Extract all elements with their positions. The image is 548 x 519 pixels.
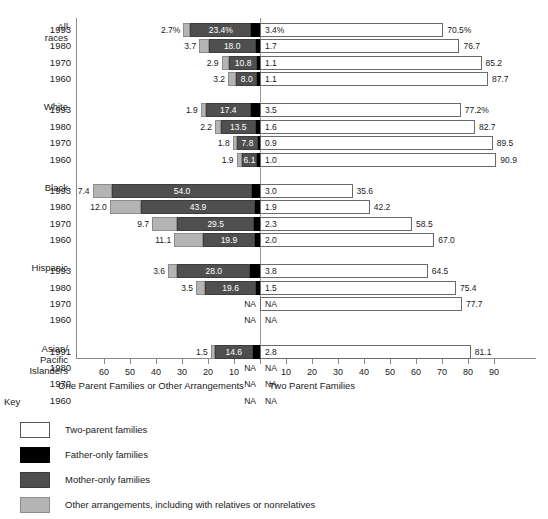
tick-mark [286, 359, 287, 364]
tick-label-left-60: 60 [92, 367, 116, 378]
year-label: 1970 [41, 218, 71, 229]
segment-father-only [251, 103, 260, 117]
year-label: 1980 [41, 121, 71, 132]
tick-label-right-60: 60 [404, 367, 428, 378]
legend-swatch-other [20, 497, 50, 513]
tick-mark [364, 359, 365, 364]
plot-area: 23.4%2.7%3.4%70.5%18.03.71.776.710.82.91… [76, 18, 540, 358]
segment-mother-only: 28.0 [177, 264, 250, 278]
value-label-na: NA [216, 394, 256, 408]
legend-label-father: Father-only families [65, 449, 148, 461]
tick-label-right-10: 10 [274, 367, 298, 378]
segment-mother-only: 14.6 [215, 345, 253, 359]
bar-row: NA77.7NA [76, 297, 540, 311]
year-label: 1993 [41, 24, 71, 35]
segment-two-parent: 2.0 [260, 233, 434, 247]
legend-swatch-two [20, 422, 50, 438]
bar-row: 28.03.63.864.5 [76, 264, 540, 278]
tick-mark [416, 359, 417, 364]
tick-mark [338, 359, 339, 364]
segment-father-only [253, 345, 260, 359]
segment-two-parent: 2.8 [260, 345, 471, 359]
tick-label-left-20: 20 [196, 367, 220, 378]
value-label-two-parent: 90.9 [500, 153, 517, 167]
segment-mother-only: 6.1 [242, 153, 258, 167]
bar-row: NANA [76, 313, 540, 327]
value-label-other: 9.7 [109, 217, 149, 231]
segment-two-parent: 3.4% [260, 23, 443, 37]
segment-other-arrangements [228, 72, 236, 86]
bar-row: 43.912.01.942.2 [76, 200, 540, 214]
segment-two-parent: NA [260, 297, 462, 311]
tick-mark [182, 359, 183, 364]
segment-two-parent: 1.9 [260, 200, 370, 214]
tick-label-right-30: 30 [326, 367, 350, 378]
segment-mother-only: 43.9 [141, 200, 255, 214]
bar-row: 19.63.51.575.4 [76, 281, 540, 295]
tick-mark [468, 359, 469, 364]
x-axis-title-left: One Parent Families or Other Arrangement… [58, 380, 244, 392]
segment-mother-only: 8.0 [236, 72, 257, 86]
segment-other-arrangements [211, 345, 215, 359]
year-label: 1980 [41, 40, 71, 51]
segment-other-arrangements [222, 56, 230, 70]
segment-other-arrangements [93, 184, 112, 198]
year-label: 1993 [41, 104, 71, 115]
value-label-two-parent: 58.5 [416, 217, 433, 231]
segment-two-parent: 3.0 [260, 184, 353, 198]
value-label-two-parent: 87.7 [492, 72, 509, 86]
value-label-na: NA [265, 394, 277, 408]
year-label: 1980 [41, 282, 71, 293]
tick-mark [442, 359, 443, 364]
year-label: 1960 [41, 395, 71, 406]
legend-swatch-father [20, 447, 50, 463]
bar-row: 14.61.52.881.1 [76, 345, 540, 359]
segment-father-only [251, 23, 260, 37]
segment-two-parent: 1.5 [260, 281, 456, 295]
bar-row: 23.4%2.7%3.4%70.5% [76, 23, 540, 37]
tick-mark [390, 359, 391, 364]
segment-father-only [252, 184, 260, 198]
segment-other-arrangements [233, 136, 238, 150]
value-label-other: 1.9 [194, 153, 234, 167]
segment-other-arrangements [196, 281, 205, 295]
value-label-two-parent: 75.4 [460, 281, 477, 295]
bar-row: 17.41.93.577.2% [76, 103, 540, 117]
value-label-two-parent: 35.6 [357, 184, 374, 198]
year-label: 1960 [41, 154, 71, 165]
segment-other-arrangements [110, 200, 141, 214]
year-label: 1960 [41, 234, 71, 245]
segment-mother-only: 10.8 [229, 56, 257, 70]
value-label-other: 1.8 [190, 136, 230, 150]
segment-two-parent: 2.3 [260, 217, 412, 231]
value-label-two-parent: 70.5% [447, 23, 471, 37]
segment-other-arrangements [215, 120, 221, 134]
tick-mark [104, 359, 105, 364]
value-label-two-parent: 85.2 [486, 56, 503, 70]
value-label-two-parent: 76.7 [463, 39, 480, 53]
tick-mark [312, 359, 313, 364]
year-label: 1970 [41, 137, 71, 148]
segment-mother-only: 13.5 [221, 120, 256, 134]
segment-two-parent: 3.8 [260, 264, 428, 278]
value-label-other: 12.0 [67, 200, 107, 214]
value-label-other: 7.4 [50, 184, 90, 198]
value-label-other: 3.5 [153, 281, 193, 295]
year-label: 1980 [41, 362, 71, 373]
tick-label-right-50: 50 [378, 367, 402, 378]
segment-other-arrangements [237, 153, 242, 167]
segment-other-arrangements [152, 217, 177, 231]
year-label: 1960 [41, 73, 71, 84]
value-label-other: 2.2 [172, 120, 212, 134]
tick-label-left-30: 30 [170, 367, 194, 378]
value-label-other: 11.1 [131, 233, 171, 247]
segment-two-parent: 3.5 [260, 103, 461, 117]
tick-mark [130, 359, 131, 364]
tick-label-right-70: 70 [430, 367, 454, 378]
year-label: 1991 [41, 346, 71, 357]
bar-row: 18.03.71.776.7 [76, 39, 540, 53]
legend-swatch-mother [20, 472, 50, 488]
segment-two-parent: 0.9 [260, 136, 493, 150]
bar-row: 7.81.80.989.5 [76, 136, 540, 150]
year-label: 1970 [41, 298, 71, 309]
